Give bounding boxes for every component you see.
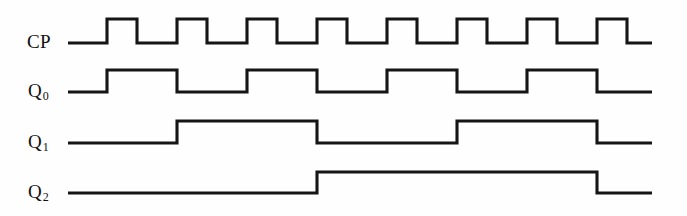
waveform-group-cp [68, 19, 652, 43]
waveform-canvas [0, 0, 687, 216]
waveform-group-q1 [68, 121, 652, 143]
waveform-q0 [68, 70, 652, 92]
waveform-cp [68, 19, 652, 43]
waveform-q2 [68, 172, 652, 193]
waveform-group-q0 [68, 70, 652, 92]
waveform-group-q2 [68, 172, 652, 193]
timing-diagram-figure: CP Q0 Q1 Q2 [0, 0, 687, 216]
waveform-q1 [68, 121, 652, 143]
